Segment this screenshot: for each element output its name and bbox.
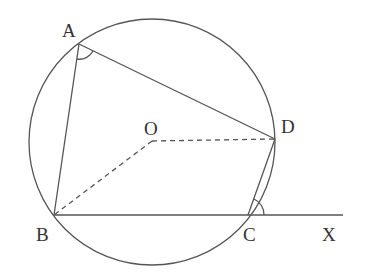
angle-mark-A xyxy=(77,51,93,59)
label-B: B xyxy=(36,224,49,245)
label-A: A xyxy=(62,20,76,41)
segment-DC xyxy=(248,139,275,215)
label-X: X xyxy=(322,224,336,245)
segment-OD xyxy=(152,139,275,141)
geometry-diagram: A B C D O X xyxy=(0,0,373,277)
label-D: D xyxy=(281,116,295,137)
segment-OB xyxy=(54,141,152,215)
label-O: O xyxy=(144,118,158,139)
segment-AB xyxy=(54,44,79,215)
label-C: C xyxy=(243,224,256,245)
segment-AD xyxy=(79,44,275,139)
circle xyxy=(29,19,275,265)
